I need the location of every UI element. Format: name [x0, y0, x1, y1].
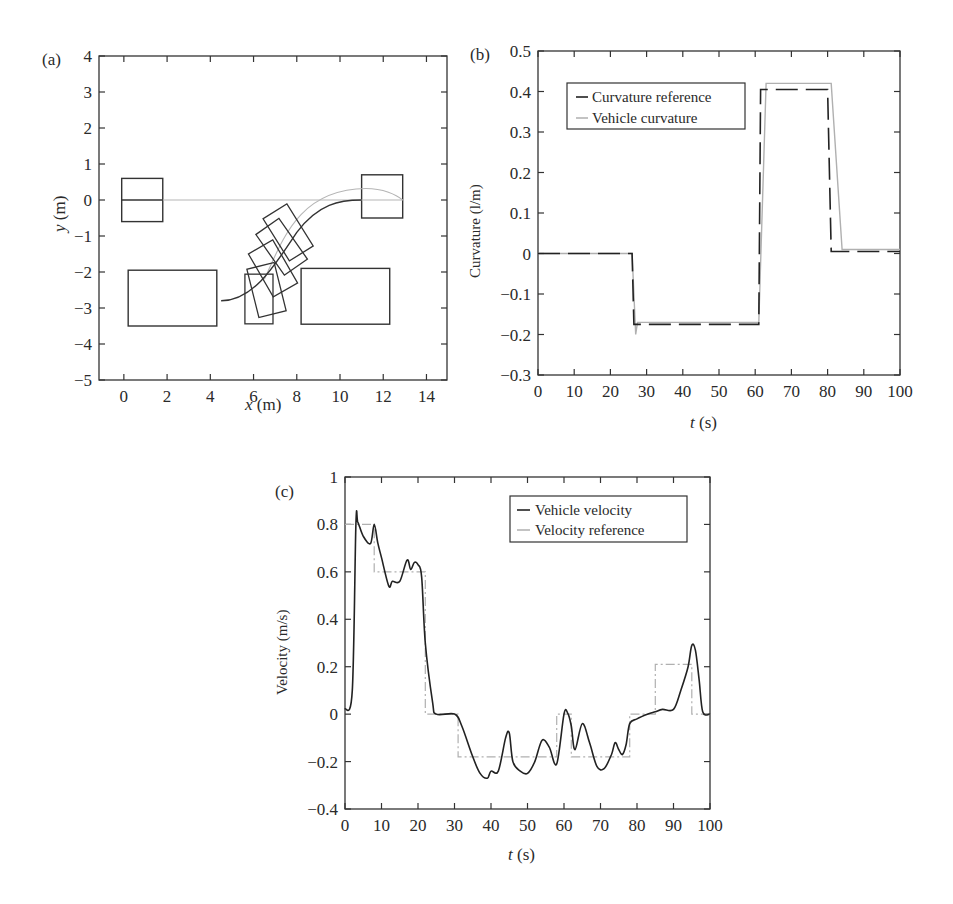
x-tick-label: 60: [747, 382, 764, 401]
vehicle-footprint: [256, 218, 307, 275]
y-tick-label: 0.5: [510, 42, 531, 61]
y-tick-label: −0.1: [500, 285, 531, 304]
x-tick-label: 12: [375, 387, 392, 406]
y-axis-label: Curvature (l/m): [467, 184, 484, 278]
obstacle-box: [128, 270, 217, 326]
y-tick-label: 0.4: [317, 610, 339, 629]
y-tick-label: −2: [74, 263, 92, 282]
x-tick-label: 90: [665, 816, 682, 835]
y-tick-label: −5: [74, 371, 92, 390]
x-tick-label: 70: [783, 382, 800, 401]
x-tick-label: 0: [341, 816, 350, 835]
panel-a-label: (a): [42, 50, 61, 69]
y-axis-label: Velocity (m/s): [274, 610, 291, 695]
x-tick-label: 30: [446, 816, 463, 835]
y-tick-label: 0.3: [510, 123, 531, 142]
y-tick-label: −0.2: [307, 753, 338, 772]
y-tick-label: 0.2: [510, 164, 531, 183]
x-tick-label: 10: [373, 816, 390, 835]
y-tick-label: 0.4: [510, 83, 532, 102]
y-tick-label: 0: [84, 191, 93, 210]
x-tick-label: 40: [483, 816, 500, 835]
y-tick-label: −3: [74, 299, 92, 318]
legend-label-velocity-reference: Velocity reference: [535, 522, 645, 538]
y-tick-label: −1: [74, 227, 92, 246]
x-tick-label: 90: [855, 382, 872, 401]
x-tick-label: 14: [418, 387, 436, 406]
legend-label-curvature-reference: Curvature reference: [592, 89, 712, 105]
x-tick-label: 50: [519, 816, 536, 835]
x-axis-label: x (m): [244, 395, 281, 414]
x-tick-label: 4: [206, 387, 215, 406]
vehicle-footprint: [247, 263, 286, 318]
panel-c-velocity-plot: (c) 010203040506070809010010.80.60.40.20…: [274, 468, 723, 864]
panel-b-label: (b): [470, 45, 490, 64]
y-tick-label: 0: [330, 705, 339, 724]
x-tick-label: 10: [332, 387, 349, 406]
y-tick-label: 1: [330, 468, 339, 487]
vehicle-velocity-line: [345, 511, 710, 778]
y-tick-label: 2: [84, 119, 93, 138]
x-tick-label: 80: [629, 816, 646, 835]
y-axis-label: y (m): [50, 196, 69, 234]
vehicle-path: [221, 200, 361, 301]
y-tick-label: −0.4: [307, 800, 338, 819]
panel-a-trajectory-plot: (a) 0246810121443210−1−2−3−4−5 x (m) y (…: [42, 47, 447, 414]
velocity-reference-line: [345, 524, 710, 756]
panel-b-curvature-plot: (b) 01020304050607080901000.50.40.30.20.…: [467, 42, 913, 432]
y-tick-label: 0.2: [317, 658, 338, 677]
y-tick-label: 1: [84, 155, 93, 174]
y-tick-label: −4: [74, 335, 93, 354]
plot-content: [122, 175, 403, 326]
x-tick-label: 60: [556, 816, 573, 835]
x-tick-label: 70: [592, 816, 609, 835]
x-tick-label: 0: [120, 387, 129, 406]
y-tick-label: 4: [84, 47, 93, 66]
y-tick-label: −0.2: [500, 326, 531, 345]
x-tick-label: 0: [534, 382, 543, 401]
x-tick-label: 10: [566, 382, 583, 401]
tick-labels: 0246810121443210−1−2−3−4−5: [74, 47, 436, 406]
y-tick-label: 0.1: [510, 204, 531, 223]
legend-label-vehicle-velocity: Vehicle velocity: [535, 502, 633, 518]
x-tick-label: 20: [410, 816, 427, 835]
panel-c-label: (c): [275, 482, 294, 501]
x-tick-label: 80: [819, 382, 836, 401]
x-tick-label: 100: [887, 382, 913, 401]
x-tick-label: 100: [697, 816, 723, 835]
legend: Vehicle velocity Velocity reference: [510, 496, 687, 542]
x-tick-label: 40: [674, 382, 691, 401]
obstacle-box: [301, 268, 390, 324]
x-tick-label: 50: [711, 382, 728, 401]
y-tick-label: 0.6: [317, 563, 338, 582]
reference-path-curve: [264, 188, 402, 279]
legend-label-vehicle-curvature: Vehicle curvature: [592, 110, 698, 126]
x-axis-label: t (s): [508, 845, 535, 864]
x-tick-label: 20: [602, 382, 619, 401]
plot-content: [345, 511, 710, 778]
x-tick-label: 8: [293, 387, 302, 406]
figure: (a) 0246810121443210−1−2−3−4−5 x (m) y (…: [0, 0, 953, 904]
x-tick-label: 2: [163, 387, 172, 406]
x-tick-label: 30: [638, 382, 655, 401]
y-tick-label: 3: [84, 83, 93, 102]
y-tick-label: 0.8: [317, 515, 338, 534]
legend: Curvature reference Vehicle curvature: [567, 83, 745, 129]
y-tick-label: 0: [523, 245, 532, 264]
x-axis-label: t (s): [690, 413, 717, 432]
y-tick-label: −0.3: [500, 366, 531, 385]
